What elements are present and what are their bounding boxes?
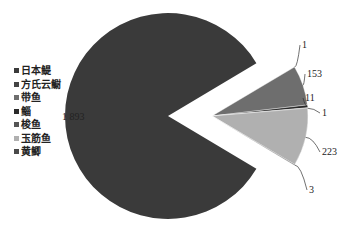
legend-swatch-icon xyxy=(14,136,19,141)
data-label: 3 xyxy=(309,184,314,195)
pie-slices xyxy=(65,13,308,219)
leader-line xyxy=(306,137,320,152)
legend-swatch-icon xyxy=(14,68,19,73)
leader-line xyxy=(303,74,305,85)
legend-label: 鲻 xyxy=(21,105,31,119)
legend-swatch-icon xyxy=(14,95,19,100)
data-label: 1 xyxy=(322,107,327,118)
legend-item: 带鱼 xyxy=(14,91,61,105)
legend-label: 梭鱼 xyxy=(21,118,41,132)
legend-label: 玉筋鱼 xyxy=(21,132,51,146)
leader-line xyxy=(308,108,320,113)
legend-label: 方氏云鳚 xyxy=(21,78,61,92)
leader-line xyxy=(295,165,307,190)
data-label: 223 xyxy=(322,146,337,157)
legend-item: 黄鲫 xyxy=(14,145,61,159)
legend-swatch-icon xyxy=(14,149,19,154)
data-label: 1 xyxy=(302,39,307,50)
data-label: 1 893 xyxy=(62,111,85,122)
legend-swatch-icon xyxy=(14,122,19,127)
legend-label: 日本鳀 xyxy=(21,64,51,78)
legend-swatch-icon xyxy=(14,82,19,87)
leader-line xyxy=(295,45,300,67)
legend-item: 日本鳀 xyxy=(14,64,61,78)
legend-item: 方氏云鳚 xyxy=(14,78,61,92)
data-label: 153 xyxy=(307,68,322,79)
legend-label: 带鱼 xyxy=(21,91,41,105)
legend-item: 梭鱼 xyxy=(14,118,61,132)
legend-label: 黄鲫 xyxy=(21,145,41,159)
legend: 日本鳀 方氏云鳚 带鱼 鲻 梭鱼 玉筋鱼 黄鲫 xyxy=(14,64,61,159)
legend-item: 玉筋鱼 xyxy=(14,132,61,146)
legend-swatch-icon xyxy=(14,109,19,114)
legend-item: 鲻 xyxy=(14,105,61,119)
data-label: 11 xyxy=(305,92,315,103)
